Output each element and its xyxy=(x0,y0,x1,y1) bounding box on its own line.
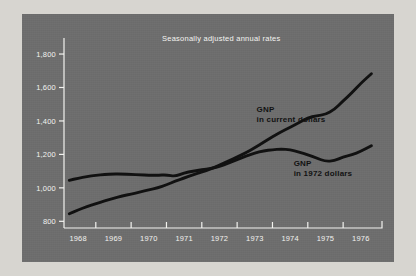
x-tick-label: 1971 xyxy=(164,234,204,243)
annotation-line-2: in 1972 dollars xyxy=(294,169,353,179)
annotation-line-1: GNP xyxy=(294,159,353,169)
x-tick-label: 1970 xyxy=(129,234,169,243)
annotation-line-2: in current dollars xyxy=(257,115,326,125)
x-tick-label: 1973 xyxy=(235,234,275,243)
annotation-gnp-1972-dollars: GNP in 1972 dollars xyxy=(294,159,353,179)
x-tick-label: 1975 xyxy=(305,234,345,243)
y-tick-label: 1,000 xyxy=(22,183,56,192)
y-tick-label: 800 xyxy=(22,217,56,226)
y-tick-label: 1,800 xyxy=(22,50,56,59)
x-tick-label: 1968 xyxy=(58,234,98,243)
y-tick-label: 1,400 xyxy=(22,116,56,125)
x-tick-label: 1974 xyxy=(270,234,310,243)
y-tick-label: 1,600 xyxy=(22,83,56,92)
chart-panel: Seasonally adjusted annual rates 8001,00… xyxy=(22,14,394,262)
y-tick-label: 1,200 xyxy=(22,150,56,159)
chart-plot-area xyxy=(22,14,394,262)
x-tick-label: 1972 xyxy=(199,234,239,243)
annotation-gnp-current-dollars: GNP in current dollars xyxy=(257,105,326,125)
data-series-group xyxy=(69,74,371,214)
x-tick-label: 1976 xyxy=(341,234,381,243)
annotation-line-1: GNP xyxy=(257,105,326,115)
chart-page: Seasonally adjusted annual rates 8001,00… xyxy=(0,0,416,276)
x-tick-label: 1969 xyxy=(93,234,133,243)
